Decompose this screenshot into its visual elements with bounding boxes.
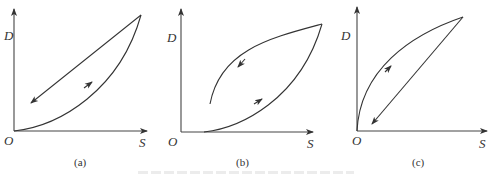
- origin-label: O: [168, 134, 178, 149]
- panel-b: D O S (b): [166, 9, 322, 169]
- origin-label: O: [352, 133, 362, 148]
- loading-curve: [357, 17, 463, 131]
- y-axis-label: D: [166, 30, 177, 45]
- loading-curve: [204, 24, 322, 132]
- loading-arrow-icon: [84, 82, 92, 88]
- origin-label: O: [4, 133, 14, 148]
- loading-arrow-icon: [385, 66, 391, 72]
- unloading-line: [372, 17, 463, 124]
- faint-figure-caption: [138, 171, 354, 174]
- panel-c: D O S (c): [340, 7, 487, 169]
- loading-curve: [14, 15, 141, 131]
- panel-caption: (c): [412, 156, 425, 169]
- y-axis-label: D: [340, 28, 351, 43]
- loading-arrow-icon: [254, 99, 262, 104]
- x-axis-label: S: [307, 136, 314, 151]
- x-axis-label: S: [479, 136, 486, 151]
- hysteresis-diagram: D O S (a) D O S (b) D O S (c): [0, 0, 492, 178]
- x-axis-label: S: [139, 135, 146, 150]
- unloading-line: [31, 15, 141, 103]
- y-axis-label: D: [3, 28, 14, 43]
- unloading-arrow-icon: [238, 59, 245, 67]
- panel-caption: (b): [236, 156, 249, 169]
- panel-caption: (a): [74, 156, 87, 169]
- panel-a: D O S (a): [3, 9, 147, 169]
